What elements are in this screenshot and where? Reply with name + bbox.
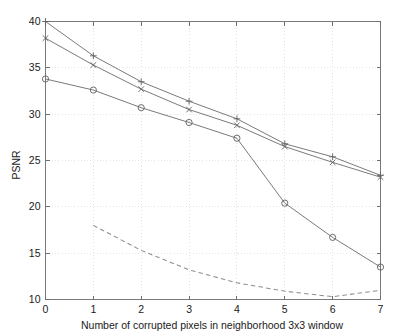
y-tick-label: 20: [29, 200, 41, 212]
y-tick-label: 35: [29, 61, 41, 73]
x-tick-label: 5: [282, 303, 288, 315]
x-tick-label: 4: [234, 303, 240, 315]
chart-background: [0, 0, 405, 336]
x-tick-label: 3: [186, 303, 192, 315]
x-tick-label: 7: [378, 303, 384, 315]
psnr-line-chart: 10152025303540 01234567 PSNR Number of c…: [0, 0, 405, 336]
y-tick-label: 30: [29, 108, 41, 120]
y-tick-label: 25: [29, 154, 41, 166]
y-tick-label: 40: [29, 15, 41, 27]
x-tick-label: 1: [90, 303, 96, 315]
y-axis-title: PSNR: [10, 150, 22, 180]
x-tick-label: 0: [43, 303, 49, 315]
x-tick-label: 2: [138, 303, 144, 315]
x-axis-title: Number of corrupted pixels in neighborho…: [81, 319, 343, 331]
chart-figure: 10152025303540 01234567 PSNR Number of c…: [0, 0, 405, 336]
x-tick-label: 6: [330, 303, 336, 315]
y-tick-label: 15: [29, 247, 41, 259]
y-tick-label: 10: [29, 293, 41, 305]
